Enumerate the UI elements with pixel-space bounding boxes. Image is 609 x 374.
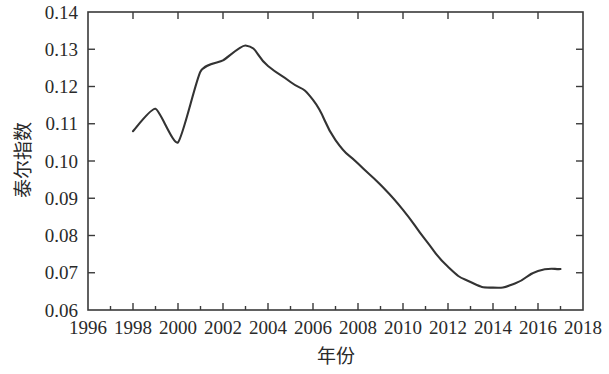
x-tick-label: 2018 [564, 317, 602, 338]
x-axis-title: 年份 [317, 345, 355, 367]
x-tick-label: 2002 [204, 317, 242, 338]
y-tick-label: 0.08 [45, 225, 78, 246]
y-tick-label: 0.10 [45, 151, 78, 172]
data-line [133, 46, 561, 288]
chart-figure: 0.060.070.080.090.100.110.120.130.14 199… [0, 0, 609, 374]
y-tick-label: 0.12 [45, 76, 78, 97]
x-tick-label: 2004 [249, 317, 288, 338]
x-tick-label: 2010 [384, 317, 422, 338]
y-tick-label: 0.11 [45, 113, 78, 134]
x-tick-label: 1996 [69, 317, 107, 338]
plot-frame [88, 12, 583, 310]
y-axis-title: 泰尔指数 [12, 122, 34, 198]
x-tick-label: 2000 [159, 317, 197, 338]
x-tick-label: 2012 [429, 317, 467, 338]
x-tick-label: 2016 [519, 317, 557, 338]
x-axis-ticks [111, 12, 561, 310]
y-axis-tick-labels: 0.060.070.080.090.100.110.120.130.14 [45, 2, 79, 321]
y-tick-label: 0.07 [45, 262, 78, 283]
x-tick-label: 2014 [474, 317, 513, 338]
theil-index-line-chart: 0.060.070.080.090.100.110.120.130.14 199… [0, 0, 609, 374]
y-axis-ticks [88, 49, 583, 273]
y-tick-label: 0.13 [45, 39, 78, 60]
y-tick-label: 0.14 [45, 2, 79, 23]
data-series-group [133, 46, 561, 288]
y-tick-label: 0.09 [45, 188, 78, 209]
x-tick-label: 2006 [294, 317, 332, 338]
x-tick-label: 2008 [339, 317, 377, 338]
x-tick-label: 1998 [114, 317, 152, 338]
x-axis-tick-labels: 1996199820002002200420062008201020122014… [69, 317, 602, 338]
